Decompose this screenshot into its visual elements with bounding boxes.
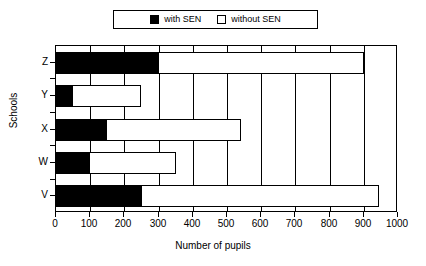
x-tick-800 bbox=[329, 212, 330, 217]
x-tick-400 bbox=[192, 212, 193, 217]
x-axis-label-100: 100 bbox=[72, 219, 106, 229]
x-axis-label-300: 300 bbox=[141, 219, 175, 229]
x-axis-label-1000: 1000 bbox=[380, 219, 414, 229]
y-axis-label-y: Y bbox=[34, 90, 48, 100]
x-tick-100 bbox=[89, 212, 90, 217]
x-tick-200 bbox=[123, 212, 124, 217]
y-tick-minor-4 bbox=[50, 179, 55, 180]
y-tick-minor-3 bbox=[50, 145, 55, 146]
y-axis-label-w: W bbox=[34, 157, 48, 167]
y-tick-z bbox=[50, 62, 55, 63]
x-tick-900 bbox=[363, 212, 364, 217]
y-axis-label-v: V bbox=[34, 190, 48, 200]
x-axis-label-200: 200 bbox=[106, 219, 140, 229]
x-axis-label-600: 600 bbox=[243, 219, 277, 229]
x-axis-label-800: 800 bbox=[312, 219, 346, 229]
y-axis-label-x: X bbox=[34, 124, 48, 134]
x-tick-500 bbox=[226, 212, 227, 217]
x-axis-label-900: 900 bbox=[346, 219, 380, 229]
x-axis-label-500: 500 bbox=[209, 219, 243, 229]
x-tick-600 bbox=[260, 212, 261, 217]
y-tick-y bbox=[50, 95, 55, 96]
y-tick-minor-1 bbox=[50, 78, 55, 79]
x-tick-0 bbox=[55, 212, 56, 217]
y-axis-label-z: Z bbox=[34, 57, 48, 67]
x-axis-label-400: 400 bbox=[175, 219, 209, 229]
y-tick-w bbox=[50, 162, 55, 163]
x-axis-label-700: 700 bbox=[277, 219, 311, 229]
x-tick-1000 bbox=[397, 212, 398, 217]
x-axis-label-0: 0 bbox=[38, 219, 72, 229]
x-tick-700 bbox=[294, 212, 295, 217]
y-tick-minor-2 bbox=[50, 112, 55, 113]
bar-chart: with SEN without SEN Schools ZYXWV 01002… bbox=[0, 0, 426, 266]
y-tick-v bbox=[50, 195, 55, 196]
y-tick-x bbox=[50, 129, 55, 130]
x-axis-title: Number of pupils bbox=[0, 240, 426, 251]
x-tick-300 bbox=[158, 212, 159, 217]
